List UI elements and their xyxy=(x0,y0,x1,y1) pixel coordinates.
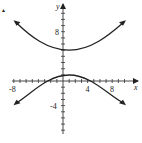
x-axis-label: x xyxy=(133,83,138,92)
x-axis: -8 4 8 x xyxy=(9,79,138,94)
y-axis: 8 -4 y xyxy=(50,2,65,134)
x-tick-label: 8 xyxy=(110,85,114,94)
problem-marker: ▲ xyxy=(1,8,6,13)
x-tick-label: 4 xyxy=(86,85,90,94)
y-axis-label: y xyxy=(55,2,60,11)
y-tick-label: 8 xyxy=(55,28,59,37)
x-tick-label: -8 xyxy=(9,85,16,94)
upper-branch-curve xyxy=(16,22,125,50)
y-tick-label: -4 xyxy=(50,102,57,111)
lower-branch-curve xyxy=(16,75,125,104)
hyperbola-graph: ▲ -8 4 8 x xyxy=(0,0,142,143)
